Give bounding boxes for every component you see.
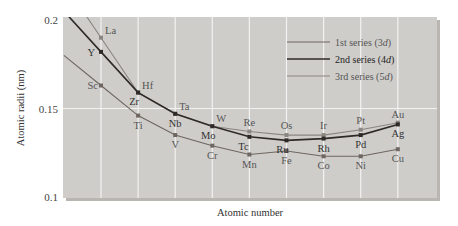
atomic-radii-chart: ScTiVCrMnFeCoNiCuYZrNbMoTcRuRhPdAgLaHfTa…	[0, 0, 458, 226]
element-label-ir: Ir	[320, 120, 327, 131]
legend-entry: 3rd series (5d)	[335, 71, 393, 83]
element-label-nb: Nb	[169, 118, 182, 129]
element-label-mn: Mn	[242, 159, 257, 170]
data-point-marker	[322, 137, 326, 141]
element-label-pt: Pt	[356, 115, 365, 126]
y-tick-label: 0.2	[44, 14, 58, 26]
data-point-marker	[210, 144, 214, 148]
element-label-tc: Tc	[238, 141, 249, 152]
x-axis-title: Atomic number	[217, 207, 284, 218]
element-label-os: Os	[281, 120, 293, 131]
y-axis: 0.20.150.1	[39, 14, 59, 203]
legend-entry: 1st series (3d)	[335, 37, 391, 49]
element-label-ru: Ru	[276, 144, 289, 155]
data-point-marker	[322, 154, 326, 158]
data-point-marker	[359, 154, 363, 158]
y-tick-label: 0.1	[44, 191, 58, 203]
element-label-au: Au	[391, 109, 405, 120]
element-label-ta: Ta	[179, 101, 190, 112]
data-point-marker	[99, 36, 103, 40]
data-point-marker	[396, 147, 400, 151]
element-label-fe: Fe	[281, 155, 292, 166]
element-label-sc: Sc	[88, 80, 99, 91]
element-label-zr: Zr	[129, 96, 139, 107]
data-point-marker	[173, 133, 177, 137]
element-label-cu: Cu	[392, 153, 405, 164]
element-label-co: Co	[317, 160, 329, 171]
legend-entry: 2nd series (4d)	[335, 54, 394, 66]
y-tick-label: 0.15	[39, 103, 59, 115]
element-label-ni: Ni	[355, 160, 366, 171]
element-label-ti: Ti	[134, 120, 143, 131]
data-point-marker	[285, 138, 289, 142]
data-point-marker	[285, 133, 289, 137]
element-label-ag: Ag	[391, 128, 405, 139]
element-label-la: La	[105, 25, 116, 36]
data-point-marker	[173, 112, 177, 116]
element-label-rh: Rh	[317, 143, 330, 154]
element-label-pd: Pd	[355, 139, 367, 150]
element-label-cr: Cr	[207, 150, 218, 161]
element-label-mo: Mo	[201, 130, 216, 141]
data-point-marker	[247, 153, 251, 157]
data-point-marker	[99, 83, 103, 87]
data-point-marker	[396, 122, 400, 126]
data-point-marker	[359, 133, 363, 137]
element-label-hf: Hf	[142, 80, 154, 91]
element-label-v: V	[171, 139, 179, 150]
element-label-re: Re	[244, 117, 256, 128]
data-point-marker	[136, 114, 140, 118]
data-point-marker	[136, 91, 140, 95]
data-point-marker	[322, 133, 326, 137]
element-label-y: Y	[87, 47, 95, 58]
element-label-w: W	[216, 113, 226, 124]
data-point-marker	[359, 128, 363, 132]
data-point-marker	[99, 50, 103, 54]
data-point-marker	[210, 124, 214, 128]
y-axis-title: Atomic radii (nm)	[15, 69, 27, 146]
data-point-marker	[247, 135, 251, 139]
data-point-marker	[247, 130, 251, 134]
